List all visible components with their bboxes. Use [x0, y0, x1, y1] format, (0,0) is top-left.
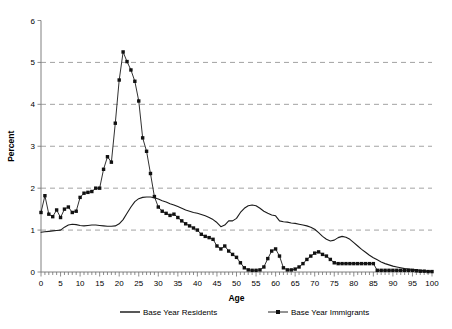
data-point-marker: [325, 254, 328, 257]
x-tick-label: 20: [115, 279, 124, 288]
data-point-marker: [63, 207, 66, 210]
data-point-marker: [118, 78, 121, 81]
data-point-marker: [223, 244, 226, 247]
series-line: [41, 52, 432, 272]
x-tick-label: 60: [271, 279, 280, 288]
data-point-marker: [114, 122, 117, 125]
data-point-marker: [243, 266, 246, 269]
data-point-marker: [59, 216, 62, 219]
data-point-marker: [399, 269, 402, 272]
y-axis-title: Percent: [6, 130, 16, 161]
data-point-marker: [403, 269, 406, 272]
data-point-marker: [110, 160, 113, 163]
data-point-marker: [43, 194, 46, 197]
series-base-year-immigrants: [39, 50, 433, 273]
data-point-marker: [121, 50, 124, 53]
data-point-marker: [282, 266, 285, 269]
data-point-marker: [336, 262, 339, 265]
y-tick-label: 5: [31, 58, 36, 67]
data-point-marker: [356, 262, 359, 265]
x-tick-label: 40: [193, 279, 202, 288]
data-point-marker: [74, 210, 77, 213]
series-base-year-residents: [41, 197, 432, 271]
y-tick-label: 6: [31, 17, 36, 26]
legend-label: Base Year Immigrants: [291, 308, 369, 317]
data-point-marker: [47, 212, 50, 215]
data-point-marker: [55, 208, 58, 211]
data-point-marker: [149, 172, 152, 175]
y-tick-label: 1: [31, 226, 36, 235]
data-point-marker: [293, 267, 296, 270]
data-point-marker: [266, 257, 269, 260]
data-point-marker: [133, 80, 136, 83]
line-chart: 0510152025303540455055606570758085909510…: [0, 0, 452, 329]
chart-container: 0510152025303540455055606570758085909510…: [0, 0, 452, 329]
x-tick-label: 80: [349, 279, 358, 288]
data-point-marker: [98, 186, 101, 189]
data-point-marker: [344, 262, 347, 265]
data-point-marker: [430, 270, 433, 273]
data-point-marker: [90, 190, 93, 193]
gridlines-group: [41, 62, 432, 230]
data-point-marker: [51, 215, 54, 218]
data-point-marker: [227, 249, 230, 252]
data-point-marker: [161, 210, 164, 213]
data-point-marker: [387, 269, 390, 272]
data-point-marker: [176, 216, 179, 219]
series-line: [41, 197, 432, 271]
y-tick-label: 3: [31, 142, 36, 151]
data-point-marker: [94, 186, 97, 189]
data-point-marker: [411, 269, 414, 272]
data-point-marker: [164, 212, 167, 215]
data-point-marker: [333, 261, 336, 264]
data-point-marker: [180, 219, 183, 222]
data-point-marker: [141, 136, 144, 139]
x-tick-label: 70: [310, 279, 319, 288]
data-point-marker: [207, 236, 210, 239]
x-tick-label: 35: [173, 279, 182, 288]
x-tick-label: 95: [408, 279, 417, 288]
data-point-marker: [278, 254, 281, 257]
data-point-marker: [395, 269, 398, 272]
x-tick-label: 50: [232, 279, 241, 288]
data-point-marker: [290, 268, 293, 271]
data-point-marker: [235, 256, 238, 259]
data-point-marker: [372, 262, 375, 265]
data-point-marker: [137, 99, 140, 102]
data-point-marker: [219, 247, 222, 250]
data-point-marker: [313, 251, 316, 254]
y-axis-ticks: [38, 21, 42, 273]
data-point-marker: [254, 269, 257, 272]
data-point-marker: [231, 253, 234, 256]
data-point-marker: [274, 247, 277, 250]
x-tick-label: 45: [212, 279, 221, 288]
data-point-marker: [78, 196, 81, 199]
data-point-marker: [200, 233, 203, 236]
data-point-marker: [184, 222, 187, 225]
data-point-marker: [297, 265, 300, 268]
data-point-marker: [157, 205, 160, 208]
data-point-marker: [71, 211, 74, 214]
data-point-marker: [67, 205, 70, 208]
x-tick-label: 0: [39, 279, 44, 288]
x-tick-label: 10: [76, 279, 85, 288]
data-point-marker: [379, 269, 382, 272]
data-point-marker: [391, 269, 394, 272]
data-point-marker: [211, 238, 214, 241]
data-point-marker: [364, 262, 367, 265]
data-point-marker: [301, 262, 304, 265]
legend-item: Base Year Residents: [120, 308, 217, 317]
data-point-marker: [258, 268, 261, 271]
data-point-marker: [419, 269, 422, 272]
x-tick-label: 100: [425, 279, 439, 288]
data-point-marker: [426, 270, 429, 273]
data-point-marker: [125, 60, 128, 63]
x-axis-ticks: [41, 272, 432, 277]
data-point-marker: [106, 155, 109, 158]
data-point-marker: [407, 269, 410, 272]
data-point-marker: [102, 168, 105, 171]
data-point-marker: [352, 262, 355, 265]
x-tick-label: 65: [291, 279, 300, 288]
series-layer: [39, 50, 433, 273]
x-axis-tick-labels: 0510152025303540455055606570758085909510…: [39, 279, 439, 288]
